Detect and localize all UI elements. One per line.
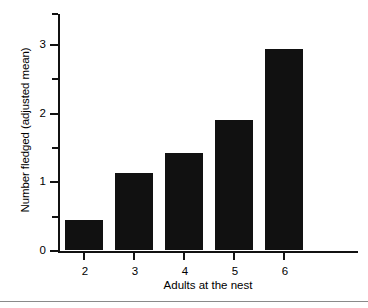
bar (215, 120, 253, 250)
x-tick-label: 3 (120, 264, 150, 278)
x-axis-line (58, 251, 358, 253)
y-tick-label: 1 (40, 173, 46, 189)
x-tick (233, 253, 235, 260)
y-tick-major: 1 (50, 181, 58, 183)
x-tick (83, 253, 85, 260)
bar (265, 49, 303, 250)
y-tick-minor (52, 216, 58, 218)
y-tick-minor (52, 147, 58, 149)
y-axis-title: Number fledged (adjusted mean) (14, 4, 36, 256)
bar (115, 173, 153, 250)
bar (65, 220, 103, 250)
y-tick-label: 3 (40, 36, 46, 52)
y-tick-minor (52, 78, 58, 80)
x-tick-label: 4 (170, 264, 200, 278)
y-tick-label: 0 (40, 242, 46, 258)
bar-chart-figure: Number fledged (adjusted mean) 0123 2345… (0, 0, 368, 308)
x-tick-label: 2 (70, 264, 100, 278)
y-axis-line (58, 14, 60, 253)
x-tick (283, 253, 285, 260)
x-tick (183, 253, 185, 260)
x-axis-title: Adults at the nest (58, 278, 358, 292)
x-tick-label: 5 (220, 264, 250, 278)
x-tick-label: 6 (270, 264, 300, 278)
y-tick-major: 2 (50, 113, 58, 115)
y-tick-minor (52, 13, 58, 15)
y-tick-label: 2 (40, 105, 46, 121)
plot-area: 0123 23456 (58, 14, 358, 252)
y-tick-major: 0 (50, 250, 58, 252)
footer-divider (0, 301, 368, 302)
x-tick (133, 253, 135, 260)
y-tick-major: 3 (50, 44, 58, 46)
bar (165, 153, 203, 250)
